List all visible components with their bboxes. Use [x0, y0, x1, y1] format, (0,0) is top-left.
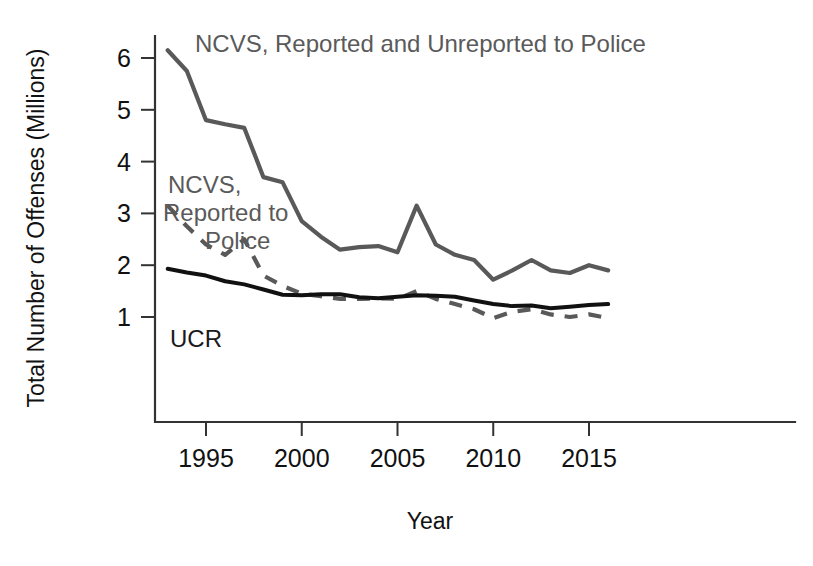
x-tick-label-1995: 1995	[178, 444, 234, 472]
y-tick-label-1: 1	[117, 303, 131, 331]
label-ncvs-reported-line1: NCVS,	[168, 171, 241, 198]
y-tick-label-2: 2	[117, 251, 131, 279]
x-axis-title: Year	[407, 508, 454, 534]
label-ncvs-reported-line3: Police	[205, 227, 270, 254]
y-tick-label-6: 6	[117, 44, 131, 72]
label-ncvs-reported-line2: Reported to	[163, 199, 288, 226]
label-ncvs-reported-and-unreported: NCVS, Reported and Unreported to Police	[195, 30, 646, 57]
y-tick-label-3: 3	[117, 199, 131, 227]
x-tick-label-2000: 2000	[274, 444, 330, 472]
x-tick-label-2010: 2010	[465, 444, 521, 472]
y-tick-label-4: 4	[117, 148, 131, 176]
chart-figure: 123456 19952000200520102015 NCVS, Report…	[0, 0, 813, 566]
x-tick-label-2005: 2005	[370, 444, 426, 472]
chart-background	[0, 0, 813, 566]
y-tick-label-5: 5	[117, 96, 131, 124]
label-ucr: UCR	[170, 325, 222, 352]
offenses-line-chart: 123456 19952000200520102015 NCVS, Report…	[0, 0, 813, 566]
x-tick-label-2015: 2015	[561, 444, 617, 472]
y-axis-title: Total Number of Offenses (Millions)	[23, 49, 49, 408]
